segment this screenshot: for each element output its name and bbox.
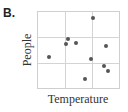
gridline-vertical [65,12,66,88]
data-point [83,77,87,81]
data-point [74,41,78,45]
data-point [89,57,93,61]
gridline-horizontal [38,37,119,38]
gridline-vertical [92,12,93,88]
gridline-horizontal [38,63,119,64]
x-axis-label: Temperature [48,93,108,105]
data-point [106,69,110,73]
scatter-plot-area [37,11,120,89]
data-point [66,37,70,41]
data-point [47,55,51,59]
data-point [104,44,108,48]
data-point [91,16,95,20]
data-point [102,64,106,68]
panel-label: B. [3,7,15,19]
data-point [64,42,68,46]
y-axis-label: People [21,34,33,67]
